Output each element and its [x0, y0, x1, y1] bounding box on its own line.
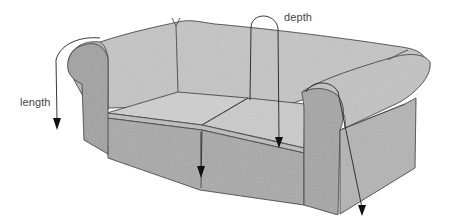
- right-arm-arrowhead-icon: [358, 205, 366, 216]
- sofa-illustration: [0, 0, 466, 224]
- sofa-diagram: length depth: [0, 0, 466, 224]
- length-arrowhead-icon: [53, 118, 61, 130]
- left-arm-front: [68, 44, 108, 154]
- right-arm-front: [302, 89, 344, 215]
- length-label: length: [20, 96, 51, 108]
- depth-label: depth: [284, 11, 312, 23]
